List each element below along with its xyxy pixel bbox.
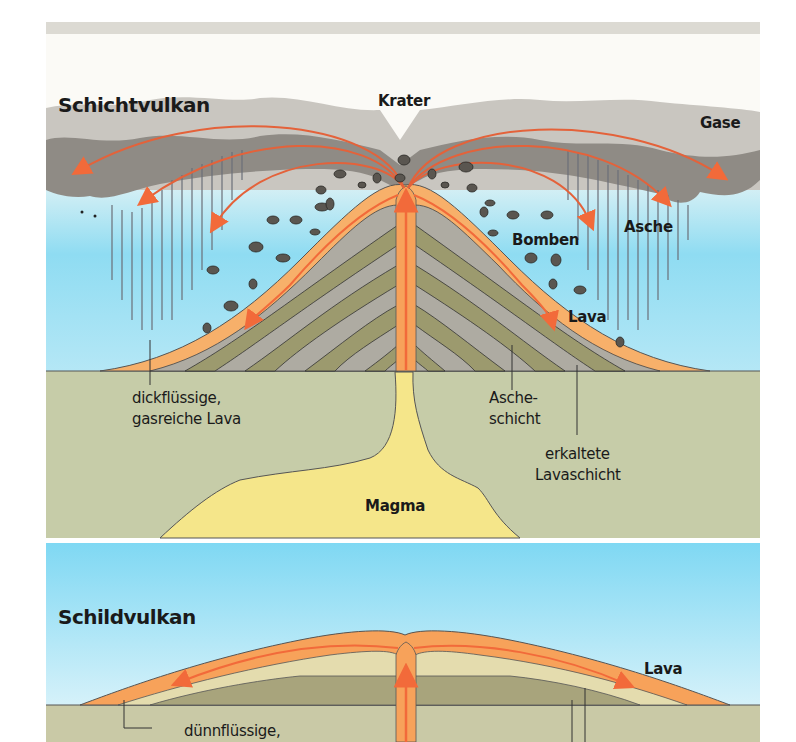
title-schichtvulkan: Schichtvulkan	[58, 93, 210, 117]
title-schildvulkan: Schildvulkan	[58, 605, 196, 629]
label-asche-schicht-1: Asche-	[489, 389, 538, 407]
label-lava-shield: Lava	[644, 660, 682, 678]
label-lavaschicht: Lavaschicht	[535, 466, 621, 484]
label-krater: Krater	[378, 92, 431, 110]
label-gasreiche-lava: gasreiche Lava	[132, 410, 241, 428]
label-asche: Asche	[624, 218, 673, 236]
label-asche-schicht-2: schicht	[489, 410, 541, 428]
stratovolcano-panel: Schichtvulkan Krater Gase Bomben Asche L…	[46, 22, 760, 538]
label-gase: Gase	[700, 114, 740, 132]
volcano-diagram: Schichtvulkan Krater Gase Bomben Asche L…	[0, 0, 796, 742]
label-magma: Magma	[365, 497, 425, 515]
shield-volcano-panel: Schildvulkan Lava dünnflüssige,	[46, 543, 760, 742]
label-dickfluessige: dickflüssige,	[132, 389, 221, 407]
label-bomben: Bomben	[512, 231, 579, 249]
label-erkaltete: erkaltete	[545, 445, 610, 463]
label-duennfluessige: dünnflüssige,	[184, 722, 280, 740]
label-lava-strato: Lava	[568, 308, 606, 326]
